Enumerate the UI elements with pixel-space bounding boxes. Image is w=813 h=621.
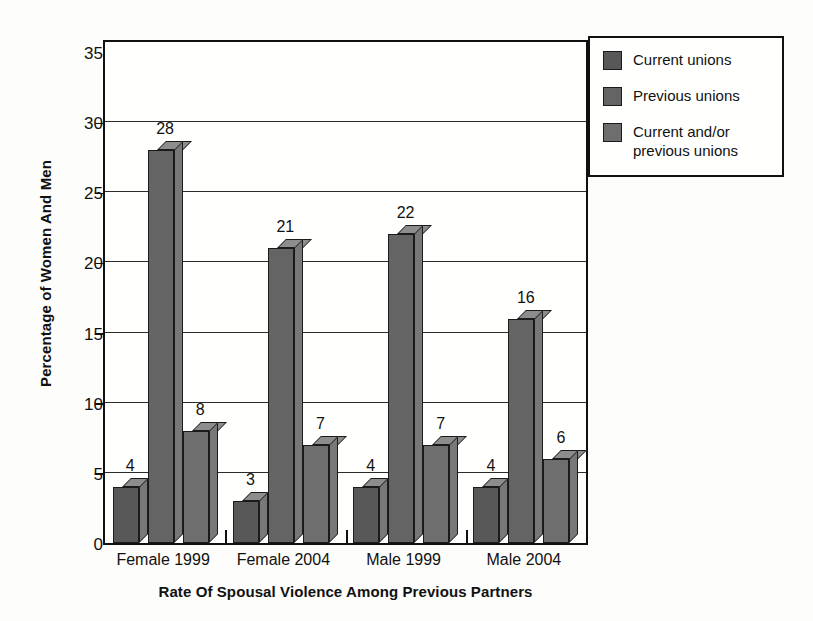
bar — [183, 431, 209, 543]
y-axis-tick-mark — [95, 123, 103, 125]
bar-value-label: 16 — [496, 289, 556, 307]
y-axis-tick-mark — [95, 403, 103, 405]
bar-side-face — [414, 225, 423, 543]
bar — [113, 487, 139, 543]
bar-side-face — [174, 141, 183, 543]
bar-side-face — [209, 422, 218, 543]
x-axis-tick-mark — [225, 530, 227, 543]
bar-side-face — [259, 492, 268, 543]
legend-swatch — [603, 123, 622, 142]
bar — [473, 487, 499, 543]
y-axis-tick-mark — [95, 333, 103, 335]
bar-front-face — [543, 459, 569, 543]
bar-front-face — [233, 501, 259, 543]
bar-value-label: 6 — [531, 429, 591, 447]
bar — [423, 445, 449, 543]
bar — [268, 248, 294, 543]
bar — [233, 501, 259, 543]
bar-value-label: 8 — [170, 401, 230, 419]
bar — [303, 445, 329, 543]
y-axis-tick-mark — [95, 263, 103, 265]
bar-front-face — [113, 487, 139, 543]
bar-side-face — [569, 450, 578, 543]
bar-front-face — [473, 487, 499, 543]
bar-front-face — [423, 445, 449, 543]
y-axis-title: Percentage of Women And Men — [37, 74, 54, 474]
x-axis-tick-mark — [346, 530, 348, 543]
chart-legend: Current unionsPrevious unionsCurrent and… — [588, 36, 784, 177]
legend-label: Current unions — [633, 50, 731, 69]
legend-label: Previous unions — [633, 86, 740, 105]
bar-side-face — [379, 478, 388, 543]
bar-front-face — [268, 248, 294, 543]
bar-side-face — [294, 239, 303, 543]
legend-item[interactable]: Previous unions — [603, 86, 740, 106]
plot-area: 4288321742274166 — [103, 40, 588, 545]
bar-side-face — [534, 310, 543, 543]
bar-side-face — [139, 478, 148, 543]
bar-value-label: 22 — [376, 204, 436, 222]
bar — [543, 459, 569, 543]
bar-value-label: 21 — [255, 218, 315, 236]
bar-front-face — [148, 150, 174, 543]
bar-front-face — [183, 431, 209, 543]
legend-item[interactable]: Current and/or previous unions — [603, 122, 738, 160]
bar-front-face — [353, 487, 379, 543]
x-axis-title: Rate Of Spousal Violence Among Previous … — [103, 583, 588, 600]
x-axis-tick-label: Male 2004 — [444, 551, 604, 569]
bar — [353, 487, 379, 543]
legend-label: Current and/or previous unions — [633, 122, 738, 160]
bar — [388, 234, 414, 543]
legend-swatch — [603, 87, 622, 106]
bar-front-face — [388, 234, 414, 543]
bar-side-face — [449, 436, 458, 543]
legend-swatch — [603, 51, 622, 70]
plot-inner: 4288321742274166 — [105, 42, 586, 543]
bar-value-label: 7 — [290, 415, 350, 433]
bar — [148, 150, 174, 543]
bar-value-label: 28 — [135, 120, 195, 138]
bar-side-face — [499, 478, 508, 543]
chart-page: Percentage of Women And Men 051015202530… — [0, 0, 813, 621]
y-axis-tick-mark — [95, 193, 103, 195]
bar-front-face — [303, 445, 329, 543]
bar-value-label: 7 — [411, 415, 471, 433]
x-axis-tick-mark — [466, 530, 468, 543]
legend-item[interactable]: Current unions — [603, 50, 731, 70]
bar-side-face — [329, 436, 338, 543]
